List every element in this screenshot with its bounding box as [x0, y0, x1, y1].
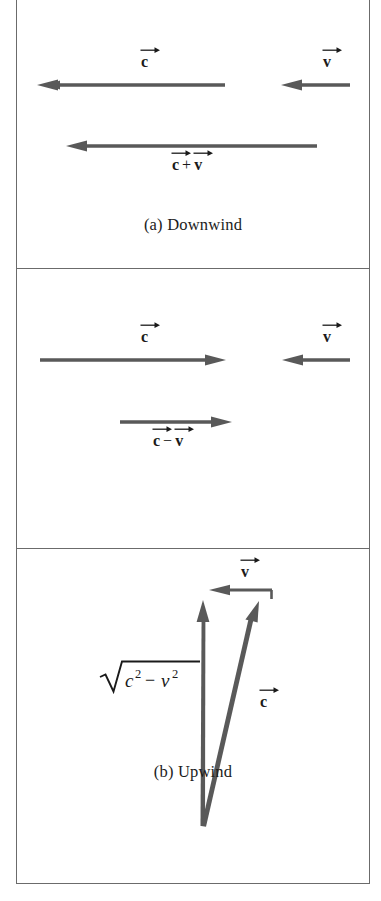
sqrt-exponent-c: 2: [135, 667, 141, 681]
vector-arrow-overline-icon: [193, 149, 207, 156]
vector-letter: v: [241, 564, 249, 580]
vector-arrow-overline-icon: [259, 686, 272, 693]
vector-letter: v: [194, 157, 202, 173]
vector-arrow-overline-icon: [171, 149, 184, 156]
vector-arrow-overline-icon: [140, 46, 153, 53]
vector-letter: c: [141, 54, 148, 70]
panel-b-label-c-minus-v: c − v: [153, 431, 183, 449]
vector-arrow-overline-icon: [322, 46, 336, 53]
panel-a-label-c: c: [141, 52, 148, 70]
plus-operator: +: [179, 157, 194, 173]
sqrt-minus-operator: −: [145, 670, 155, 690]
panel-b-label-v: v: [323, 327, 331, 345]
panel-c-label-v: v: [241, 562, 249, 580]
vector-letter: c: [172, 157, 179, 173]
panel-upwind: c v: [16, 268, 370, 548]
panel-downwind: c v: [16, 0, 370, 268]
vector-arrow-overline-icon: [240, 556, 254, 563]
vector-letter: v: [175, 433, 183, 449]
vector-v-glyph: v: [323, 52, 331, 70]
vector-c-glyph: c: [172, 155, 179, 173]
minus-operator: −: [160, 433, 175, 449]
sqrt-radicand-v: v: [161, 670, 170, 691]
vector-c-glyph: c: [153, 431, 160, 449]
panel-c-label-sqrt: c 2 − v 2: [98, 648, 202, 696]
panel-c-label-c: c: [260, 692, 267, 710]
figure-root: c v: [0, 0, 381, 901]
vector-letter: c: [141, 329, 148, 345]
panel-a-caption: (a) Downwind: [16, 215, 370, 235]
vector-letter: v: [323, 54, 331, 70]
vector-c-glyph: c: [260, 692, 267, 710]
vector-v-glyph: v: [241, 562, 249, 580]
vector-letter: c: [153, 433, 160, 449]
sqrt-exponent-v: 2: [172, 667, 178, 681]
vector-letter: c: [260, 694, 267, 710]
panel-b-label-c: c: [141, 327, 148, 345]
vector-arrow-overline-icon: [322, 321, 336, 328]
vector-v-glyph: v: [323, 327, 331, 345]
panel-a-label-c-plus-v: c + v: [172, 155, 202, 173]
sqrt-radicand-c: c: [125, 670, 134, 691]
vector-c-glyph: c: [141, 327, 148, 345]
vector-arrow-overline-icon: [152, 425, 165, 432]
vector-v-glyph: v: [175, 431, 183, 449]
vector-arrow-overline-icon: [140, 321, 153, 328]
panel-across-wind: v c c 2 − v: [16, 548, 370, 884]
panel-a-label-v: v: [323, 52, 331, 70]
vector-arrow-overline-icon: [174, 425, 188, 432]
vector-letter: v: [323, 329, 331, 345]
vector-v-glyph: v: [194, 155, 202, 173]
vector-c-glyph: c: [141, 52, 148, 70]
